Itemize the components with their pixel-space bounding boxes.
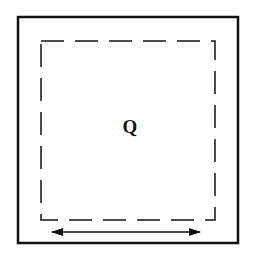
diagram-canvas: Q: [0, 0, 257, 259]
region-label-q: Q: [123, 116, 138, 137]
